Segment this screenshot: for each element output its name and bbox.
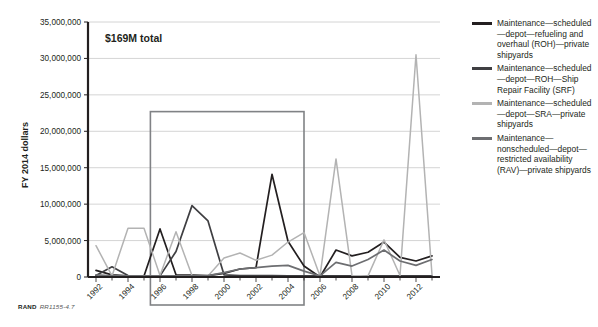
legend-item-4: Maintenance—nonscheduled—depot—restricte… <box>472 133 596 175</box>
x-tick-label: 1992 <box>85 282 105 302</box>
y-tick-label: 35,000,000 <box>40 18 81 27</box>
legend-label: Maintenance—nonscheduled—depot—restricte… <box>497 133 596 175</box>
x-tick-label: 1996 <box>149 282 169 302</box>
x-tick-label: 1998 <box>181 282 201 302</box>
x-tick-label: 2002 <box>245 282 265 302</box>
x-tick-label: 2000 <box>213 282 233 302</box>
series-lines <box>96 55 432 277</box>
gridlines <box>88 22 440 241</box>
y-tick-label: 15,000,000 <box>40 164 81 173</box>
chart-legend: Maintenance—scheduled—depot—refueling an… <box>472 18 596 178</box>
y-tick-label: 10,000,000 <box>40 200 81 209</box>
axis-lines <box>88 22 440 277</box>
x-axis-tick-labels: 1992199419961998200020022004200620082010… <box>85 282 425 302</box>
rand-logo-text: RAND <box>18 303 37 310</box>
total-annotation: $169M total <box>105 32 162 44</box>
x-tick-label: 2008 <box>341 282 361 302</box>
legend-swatch-icon <box>472 137 492 140</box>
x-tick-label: 2006 <box>309 282 329 302</box>
legend-item-1: Maintenance—scheduled—depot—refueling an… <box>472 18 596 60</box>
y-tick-label: 30,000,000 <box>40 54 81 63</box>
axis-ticks <box>84 22 432 282</box>
y-axis-tick-labels: 05,000,00010,000,00015,000,00020,000,000… <box>40 18 81 282</box>
y-axis-title: FY 2014 dollars <box>20 122 30 188</box>
series-line-1 <box>96 174 432 277</box>
legend-swatch-icon <box>472 67 492 70</box>
legend-swatch-icon <box>472 22 492 25</box>
x-tick-label: 1994 <box>117 282 137 302</box>
legend-swatch-icon <box>472 102 492 105</box>
legend-label: Maintenance—scheduled—depot—refueling an… <box>497 18 596 60</box>
figure-container: 05,000,00010,000,00015,000,00020,000,000… <box>0 0 598 327</box>
x-tick-label: 2012 <box>405 282 425 302</box>
figure-id: RR1155-4.7 <box>40 303 75 310</box>
y-tick-label: 0 <box>76 273 81 282</box>
y-tick-label: 5,000,000 <box>45 237 82 246</box>
figure-footer: RANDRR1155-4.7 <box>18 303 75 310</box>
x-tick-label: 2010 <box>373 282 393 302</box>
series-line-4 <box>96 250 432 276</box>
legend-item-2: Maintenance—scheduled—depot—ROH—Ship Rep… <box>472 63 596 95</box>
legend-item-3: Maintenance—scheduled—depot—SRA—private … <box>472 98 596 130</box>
legend-label: Maintenance—scheduled—depot—ROH—Ship Rep… <box>497 63 596 95</box>
y-tick-label: 20,000,000 <box>40 127 81 136</box>
y-tick-label: 25,000,000 <box>40 91 81 100</box>
legend-label: Maintenance—scheduled—depot—SRA—private … <box>497 98 596 130</box>
x-tick-label: 2004 <box>277 282 297 302</box>
